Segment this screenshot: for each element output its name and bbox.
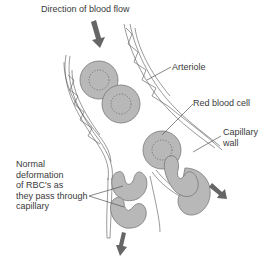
arrow-right-icon: [209, 183, 227, 199]
label-arteriole: Arteriole: [172, 62, 206, 73]
label-deformation: Normal deformation of RBC's as they pass…: [16, 159, 88, 212]
red-blood-cells: [80, 61, 181, 169]
arrow-top-icon: [91, 20, 105, 48]
title-direction-of-blood-flow: Direction of blood flow: [41, 4, 130, 15]
label-capillary-wall: Capillary wall: [223, 127, 258, 148]
rbc-disc-2: [102, 85, 140, 123]
label-red-blood-cell: Red blood cell: [193, 98, 250, 109]
deformed-rbcs-left: [111, 171, 147, 228]
deformed-rbcs-right: [164, 156, 210, 215]
arteriole-wall: [124, 24, 222, 150]
arrow-bottom-icon: [116, 232, 127, 256]
